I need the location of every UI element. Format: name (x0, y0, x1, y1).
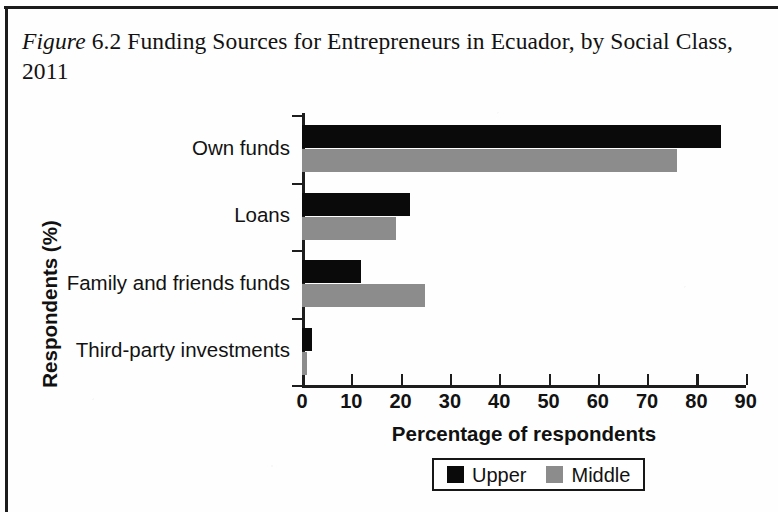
y-axis-tick (292, 385, 302, 387)
legend-swatch-icon (546, 466, 563, 483)
page-border-top-rule (4, 6, 778, 9)
bar-middle-loans (302, 217, 396, 240)
x-axis-tick (746, 374, 748, 385)
legend-label: Upper (472, 465, 526, 485)
x-axis-tick-label: 60 (576, 390, 620, 413)
y-axis-tick (292, 250, 302, 252)
figure-caption: Figure 6.2 Funding Sources for Entrepren… (22, 26, 742, 86)
legend-entry-upper: Upper (447, 465, 526, 485)
y-axis-category-label: Own funds (0, 136, 290, 160)
x-axis-tick-label: 70 (625, 390, 669, 413)
legend-entry-middle: Middle (546, 465, 630, 485)
x-axis-line (302, 385, 746, 388)
y-axis-title: Respondents (%) (38, 194, 62, 414)
bar-upper-third-party-investments (302, 328, 312, 351)
bar-upper-loans (302, 193, 410, 216)
scanned-page: Figure 6.2 Funding Sources for Entrepren… (0, 0, 778, 512)
x-axis-title: Percentage of respondents (302, 422, 746, 446)
x-axis-tick-label: 80 (674, 390, 718, 413)
bar-middle-family-and-friends-funds (302, 284, 425, 307)
figure-caption-text: Funding Sources for Entrepreneurs in Ecu… (22, 28, 733, 84)
legend-label: Middle (571, 465, 630, 485)
bar-middle-own-funds (302, 149, 677, 172)
plot-area (302, 115, 746, 385)
y-axis-tick (292, 115, 302, 117)
figure-caption-label: Figure (22, 28, 86, 54)
x-axis-tick-label: 0 (280, 390, 324, 413)
bar-upper-family-and-friends-funds (302, 260, 361, 283)
x-axis-tick-label: 90 (724, 390, 768, 413)
figure-caption-number: 6.2 (92, 28, 122, 54)
bar-chart: 0102030405060708090 Own fundsLoansFamily… (0, 100, 778, 512)
x-axis-tick-label: 10 (329, 390, 373, 413)
y-axis-tick (292, 183, 302, 185)
x-axis-tick-label: 30 (428, 390, 472, 413)
x-axis-tick-label: 40 (477, 390, 521, 413)
legend-swatch-icon (447, 466, 464, 483)
x-axis-tick-label: 20 (379, 390, 423, 413)
chart-legend: UpperMiddle (432, 458, 645, 491)
bar-middle-third-party-investments (302, 352, 307, 375)
x-axis-tick-label: 50 (527, 390, 571, 413)
y-axis-tick (292, 318, 302, 320)
bar-upper-own-funds (302, 125, 721, 148)
